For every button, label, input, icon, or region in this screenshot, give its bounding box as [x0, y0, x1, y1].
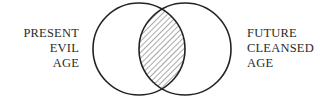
left-label-line-2: EVIL: [23, 41, 79, 56]
left-label-line-1: PRESENT: [23, 26, 79, 41]
right-set-label: FUTURE CLEANSED AGE: [247, 26, 314, 71]
right-label-line-2: CLEANSED: [247, 41, 314, 56]
right-label-line-3: AGE: [247, 56, 314, 71]
left-set-label: PRESENT EVIL AGE: [23, 26, 79, 71]
left-label-line-3: AGE: [23, 56, 79, 71]
right-label-line-1: FUTURE: [247, 26, 314, 41]
